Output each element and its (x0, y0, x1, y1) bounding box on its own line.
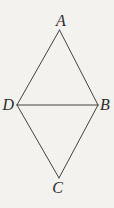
rhombus-diagram: ABCD (0, 0, 114, 208)
vertex-label-b: B (100, 96, 110, 113)
vertex-label-d: D (1, 96, 14, 113)
geometry-figure: ABCD (0, 0, 114, 208)
edge-BC (59, 105, 98, 178)
edge-AD (17, 30, 60, 105)
vertex-label-c: C (52, 179, 63, 196)
vertex-label-a: A (55, 12, 66, 29)
edge-DC (17, 105, 59, 178)
edge-AB (60, 30, 99, 105)
